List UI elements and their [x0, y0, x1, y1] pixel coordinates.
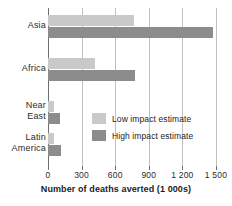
- legend-label-low: Low impact estimate: [112, 114, 191, 124]
- y-axis-label-near-east-line1: Near: [0, 100, 46, 111]
- legend-item-high: High impact estimate: [92, 129, 193, 142]
- legend: Low impact estimate High impact estimate: [92, 112, 193, 146]
- bar: [48, 58, 95, 69]
- bar: [48, 70, 135, 81]
- y-axis-label-asia-line1: Asia: [0, 20, 46, 31]
- legend-swatch-low-icon: [92, 113, 106, 124]
- bar: [48, 101, 54, 112]
- y-axis-label-near-east-line2: East: [0, 111, 46, 122]
- legend-swatch-high-icon: [92, 130, 106, 141]
- x-axis-tick-label: 600: [108, 170, 123, 180]
- x-axis-title: Number of deaths averted (1 000s): [0, 184, 232, 194]
- x-axis-tick-label: 0: [46, 170, 51, 180]
- x-axis-tick-label: 1 500: [205, 170, 227, 180]
- y-axis-label-asia: Asia: [0, 20, 46, 31]
- x-axis-tick-label: 1 200: [171, 170, 193, 180]
- y-axis-label-latin-america-line2: America: [0, 143, 46, 154]
- bar: [48, 113, 60, 124]
- y-axis-label-latin-america-line1: Latin: [0, 132, 46, 143]
- legend-label-high: High impact estimate: [112, 131, 193, 141]
- y-axis-label-africa-line1: Africa: [0, 63, 46, 74]
- x-axis-tick-label: 300: [74, 170, 89, 180]
- gridline: [216, 8, 217, 166]
- bar: [48, 15, 134, 26]
- bar: [48, 27, 213, 38]
- y-axis-label-near-east: Near East: [0, 100, 46, 121]
- x-axis-tick-label: 900: [141, 170, 156, 180]
- legend-item-low: Low impact estimate: [92, 112, 193, 125]
- bar-chart: Asia Africa Near East Latin America 0300…: [0, 0, 232, 206]
- bar: [48, 133, 54, 144]
- y-axis-label-africa: Africa: [0, 63, 46, 74]
- bar: [48, 145, 61, 156]
- y-axis-label-latin-america: Latin America: [0, 132, 46, 153]
